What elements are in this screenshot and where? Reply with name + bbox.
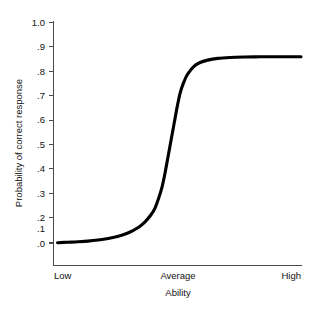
- y-axis-ticks: [49, 23, 54, 244]
- y-axis-title: Probability of correct response: [13, 79, 24, 207]
- x-tick-label-low: Low: [54, 270, 72, 281]
- chart-figure: 1.0 .9 .8 .7 .6 .5 .4 .3 .2 .1 .0 Low Av…: [0, 0, 317, 322]
- y-tick-label: .4: [37, 163, 45, 174]
- x-tick-label-high: High: [281, 270, 301, 281]
- y-tick-label: .8: [37, 66, 45, 77]
- y-tick-label: 1.0: [32, 17, 45, 28]
- x-tick-label-average: Average: [160, 270, 195, 281]
- y-tick-label: .5: [37, 139, 45, 150]
- y-tick-label: .7: [37, 90, 45, 101]
- y-tick-label: .2: [37, 212, 45, 223]
- x-axis-title: Ability: [165, 287, 191, 298]
- y-tick-label: .9: [37, 41, 45, 52]
- probability-curve: [58, 57, 302, 243]
- x-axis-tick-labels: Low Average High: [54, 270, 301, 281]
- y-axis-tick-labels: 1.0 .9 .8 .7 .6 .5 .4 .3 .2 .1 .0: [32, 17, 45, 250]
- y-tick-label: .3: [37, 188, 45, 199]
- y-tick-label: .1: [37, 223, 45, 234]
- y-tick-label: .0: [37, 238, 45, 249]
- y-tick-label: .6: [37, 114, 45, 125]
- item-characteristic-curve-chart: 1.0 .9 .8 .7 .6 .5 .4 .3 .2 .1 .0 Low Av…: [0, 0, 317, 322]
